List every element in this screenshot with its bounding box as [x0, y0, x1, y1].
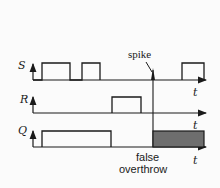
q-waveform	[42, 131, 111, 147]
signal-r-label: R	[19, 93, 28, 106]
s-t-label: t	[193, 86, 198, 99]
r-waveform	[112, 97, 141, 113]
timing-diagram: S t spike R t Q t false overthrow	[0, 0, 220, 188]
r-t-label: t	[193, 119, 198, 132]
signal-q: Q t	[18, 124, 206, 167]
signal-s-label: S	[18, 59, 26, 72]
spike-label: spike	[128, 48, 151, 60]
s-waveform	[33, 63, 100, 80]
overthrow-label: overthrow	[119, 163, 167, 175]
signal-r: R t	[19, 93, 206, 132]
s-waveform-late	[182, 63, 204, 80]
q-t-label: t	[193, 154, 198, 167]
false-overthrow-annotation: false overthrow	[119, 151, 167, 175]
q-false-overthrow-region	[153, 131, 204, 147]
spike-pointer	[146, 62, 152, 72]
signal-q-label: Q	[18, 124, 27, 137]
signal-s: S t	[18, 59, 206, 99]
false-label: false	[136, 151, 159, 163]
